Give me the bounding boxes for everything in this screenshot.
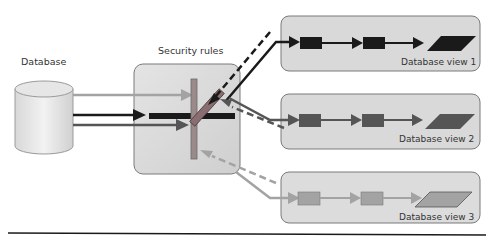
database-view-2-label: Database view 2: [399, 134, 474, 144]
database-view-1-label: Database view 1: [401, 57, 476, 67]
database-label: Database: [21, 56, 66, 67]
input-arrow-dark: [73, 109, 146, 121]
security-rules-label: Security rules: [158, 45, 223, 56]
database-view-3-label: Database view 3: [399, 212, 474, 222]
bottom-divider: [8, 233, 486, 235]
database-cylinder-icon: [15, 81, 73, 154]
security-views-diagram: Database Security rules: [0, 0, 492, 239]
